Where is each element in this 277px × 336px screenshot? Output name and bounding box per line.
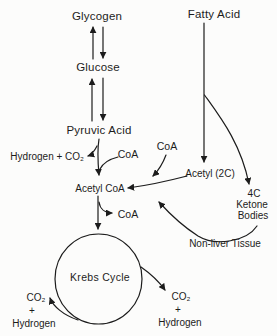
node-krebs-cycle: Krebs Cycle: [70, 271, 130, 283]
label-left-plus: +: [29, 305, 35, 316]
arrow-out-hydrogen-co2: [88, 146, 97, 156]
diagram-canvas: Glycogen Glucose Pyruvic Acid Fatty Acid…: [0, 0, 277, 336]
label-hydrogen-co2-out: Hydrogen + CO₂: [10, 151, 84, 162]
label-right-hydrogen: Hydrogen: [158, 317, 201, 328]
arrow-coa-into-acetyl2c-step: [153, 155, 166, 176]
label-coa-in-pyruvate: CoA: [118, 148, 138, 160]
node-fatty-acid: Fatty Acid: [188, 8, 241, 20]
arrow-pyruvate-to-acetylcoa: [98, 139, 99, 175]
label-right-plus: +: [175, 304, 181, 315]
arrow-coa-released: [99, 202, 112, 213]
node-glucose: Glucose: [76, 61, 120, 73]
curve-coa-into-pyruvate-step: [100, 157, 118, 169]
node-pyruvic-acid: Pyruvic Acid: [66, 124, 131, 136]
label-non-liver-tissue: Non-liver Tissue: [189, 238, 261, 249]
node-acetyl-coa: Acetyl CoA: [75, 183, 125, 194]
label-left-hydrogen: Hydrogen: [12, 318, 55, 329]
label-coa-released: CoA: [118, 208, 138, 220]
node-glycogen: Glycogen: [72, 10, 122, 22]
node-ketone-word: Ketone: [236, 199, 268, 210]
label-left-co2: CO₂: [27, 292, 46, 303]
node-acetyl-2c: Acetyl (2C): [185, 168, 234, 179]
metabolic-pathway-diagram: Glycogen Glucose Pyruvic Acid Fatty Acid…: [0, 0, 277, 336]
label-coa-in-acetyl2c: CoA: [157, 140, 177, 152]
arrow-krebs-out-right: [141, 267, 165, 290]
node-ketone-4c: 4C: [248, 188, 261, 199]
label-right-co2: CO₂: [172, 291, 191, 302]
node-bodies-word: Bodies: [238, 210, 269, 221]
arrow-acetyl2c-to-acetylcoa: [128, 176, 187, 188]
